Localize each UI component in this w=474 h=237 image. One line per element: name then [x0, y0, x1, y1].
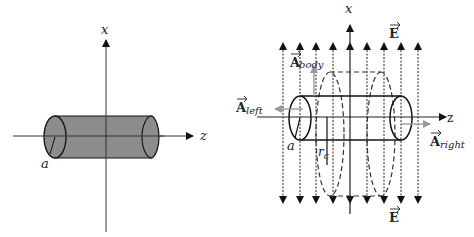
radius-line — [295, 118, 300, 138]
z-axis-label: z — [447, 111, 453, 125]
left-figure: x z a — [13, 22, 207, 232]
right-figure: x z a rc E E A body A left A right — [235, 1, 466, 225]
field-label-top: E — [389, 22, 400, 41]
diagram-canvas: x z a — [0, 0, 474, 237]
radius-label: a — [41, 156, 49, 171]
radius-label: a — [287, 138, 295, 153]
field-label-bottom: E — [389, 206, 400, 225]
svg-text:right: right — [440, 139, 466, 150]
area-right-label: A right — [429, 130, 466, 150]
x-axis-label: x — [101, 22, 109, 37]
cylinder-body — [55, 116, 159, 158]
svg-text:E: E — [389, 210, 399, 225]
gaussian-right-cap-back — [367, 72, 381, 196]
gaussian-left-cap — [316, 72, 344, 196]
z-axis-label: z — [199, 128, 207, 143]
area-body-label: A body — [289, 51, 324, 70]
diagram-svg: x z a — [0, 0, 474, 237]
gaussian-surface — [316, 72, 395, 196]
svg-text:body: body — [299, 59, 324, 70]
x-axis-label: x — [345, 1, 353, 16]
area-left-label: A left — [235, 96, 264, 116]
svg-text:E: E — [389, 26, 399, 41]
svg-text:left: left — [246, 105, 264, 116]
